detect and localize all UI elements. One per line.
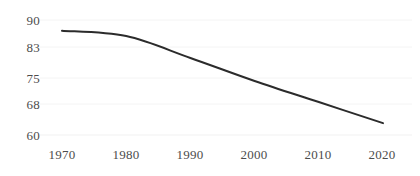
y-tick-label-60: 60 [8,129,40,142]
x-tick-label-2000: 2000 [232,148,276,161]
x-tick-label-2020: 2020 [360,148,404,161]
x-tick-label-2010: 2010 [296,148,340,161]
y-tick-label-90: 90 [8,14,40,27]
gridlines [40,20,412,135]
x-tick-label-1980: 1980 [104,148,148,161]
y-tick-label-75: 75 [8,72,40,85]
y-tick-label-68: 68 [8,98,40,111]
line-chart: 90 83 75 68 60 1970 1980 1990 2000 2010 … [0,0,420,176]
y-tick-label-83: 83 [8,41,40,54]
x-tick-label-1970: 1970 [40,148,84,161]
x-tick-label-1990: 1990 [168,148,212,161]
data-line-series-0 [62,31,383,123]
